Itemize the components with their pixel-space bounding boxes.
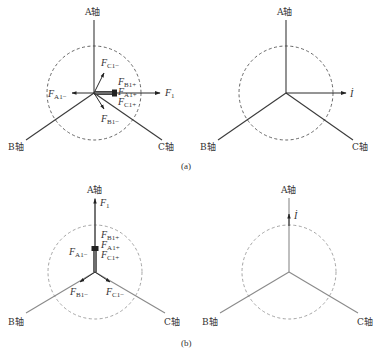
a-axis-label: A轴: [276, 6, 293, 17]
fb1-minus-label: FB1−: [69, 286, 88, 299]
fb1-minus-arrow: [80, 272, 95, 282]
fa1-minus-label: FA1−: [68, 246, 88, 259]
plus-vector-bundle: [92, 246, 99, 272]
mmf-phasor-diagram: A轴 B轴 C轴 F1 FA1− FC1− FB1+ FA1+ FC1+ FB1…: [0, 0, 383, 355]
fa1-minus-label: FA1−: [47, 88, 67, 101]
fc1-minus-label: FC1−: [100, 57, 119, 70]
panel-a-right: A轴 B轴 C轴 İ: [200, 6, 368, 152]
b-axis-label: B轴: [8, 141, 24, 152]
f1-label: F1: [164, 87, 175, 100]
a-axis-label: A轴: [86, 184, 103, 195]
current-phasor-label: İ: [293, 210, 298, 221]
b-axis-label: B轴: [8, 316, 24, 327]
c-axis-label: C轴: [357, 316, 373, 327]
fb1-minus-label: FB1−: [100, 113, 119, 126]
a-axis-label: A轴: [280, 184, 297, 195]
c-axis-line: [286, 93, 353, 140]
c-axis-line: [289, 272, 358, 313]
b-axis-label: B轴: [202, 316, 218, 327]
b-axis-line: [218, 93, 286, 140]
panel-a-left: A轴 B轴 C轴 F1 FA1− FC1− FB1+ FA1+ FC1+ FB1…: [8, 6, 175, 152]
b-axis-label: B轴: [200, 141, 216, 152]
fc1-minus-arrow: [94, 73, 104, 93]
f1-label: F1: [99, 197, 110, 210]
c-axis-label: C轴: [158, 141, 174, 152]
b-axis-line: [220, 272, 289, 313]
a-axis-label: A轴: [84, 6, 101, 17]
caption-a: (a): [181, 161, 191, 171]
caption-b: (b): [181, 338, 192, 348]
current-phasor-label: İ: [349, 88, 354, 99]
panel-b-right: A轴 B轴 C轴 İ: [202, 184, 373, 327]
panel-b-left: A轴 B轴 C轴 F1 FB1+ FA1+ FC1+ FA1− FB1− FC1…: [8, 184, 180, 327]
fb1-minus-arrow: [94, 93, 104, 109]
c-axis-label: C轴: [164, 316, 180, 327]
fc1-minus-arrow: [95, 272, 110, 282]
c-axis-label: C轴: [352, 141, 368, 152]
